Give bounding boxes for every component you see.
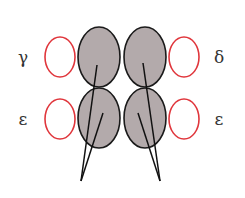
- label-delta: δ: [214, 47, 224, 67]
- red-ellipse-top-left: [45, 37, 75, 77]
- gray-subunit-bottom-right: [124, 88, 166, 148]
- label-epsilon-right: ε: [215, 109, 224, 129]
- label-gamma: γ: [18, 47, 28, 67]
- subunit-diagram: γ ε δ ε: [0, 0, 245, 198]
- label-epsilon-left: ε: [19, 109, 28, 129]
- red-ellipse-top-right: [169, 37, 199, 77]
- gray-subunit-bottom-left: [78, 88, 120, 148]
- red-ellipse-bottom-right: [169, 99, 199, 139]
- gray-subunit-top-left: [78, 27, 120, 87]
- red-ellipse-bottom-left: [45, 99, 75, 139]
